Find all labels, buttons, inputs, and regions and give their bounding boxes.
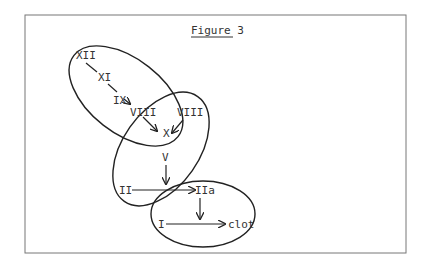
node-iia: IIa (195, 184, 215, 197)
node-i: I (158, 218, 165, 231)
node-clot: clot (228, 218, 255, 231)
edge-viii-x (143, 117, 157, 131)
node-xi: XI (98, 71, 111, 84)
edge-xii-xi (86, 63, 97, 72)
node-ii: II (119, 184, 132, 197)
node-x: X (163, 127, 170, 140)
node-xii: XII (76, 49, 96, 62)
node-v: V (162, 151, 169, 164)
node-viii-b: VIII (177, 106, 204, 119)
figure-canvas: Figure 3 XII XI IX VIII VIII X V II IIa … (0, 0, 426, 268)
edge-xi-ix (108, 84, 117, 92)
figure-title: Figure 3 (191, 24, 244, 37)
node-ix: IX (113, 94, 127, 107)
